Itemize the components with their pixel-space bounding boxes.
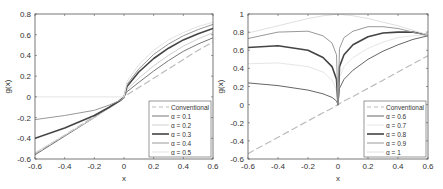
legend: Conventionalα = 0.1α = 0.2α = 0.3α = 0.4… [149, 101, 211, 157]
right-chart-panel: -0.6-0.4-0.200.20.40.6-0.6-0.4-0.200.20.… [216, 10, 434, 183]
legend-label: α = 0.5 [171, 149, 192, 156]
left-chart-panel: -0.6-0.4-0.200.20.40.6-0.6-0.4-0.200.20.… [3, 10, 219, 183]
y-tick-label: -0.2 [230, 119, 244, 128]
x-tick-label: -0.2 [87, 162, 101, 171]
y-tick-label: 0 [27, 93, 32, 102]
x-tick-label: 0 [336, 162, 341, 171]
y-tick-label: 0.6 [233, 46, 245, 55]
series-line-5 [35, 22, 213, 97]
y-tick-label: -0.6 [17, 155, 31, 164]
y-tick-label: 0.8 [233, 28, 245, 37]
legend-label: α = 0.7 [386, 122, 407, 129]
legend-label: Conventional [386, 104, 424, 111]
legend: Conventionalα = 0.6α = 0.7α = 0.8α = 0.9… [364, 101, 426, 157]
y-tick-label: 0.4 [20, 51, 32, 60]
x-tick-label: -0.4 [271, 162, 285, 171]
x-tick-label: 0.4 [178, 162, 190, 171]
y-tick-label: 0.2 [233, 83, 245, 92]
legend-label: α = 0.1 [171, 113, 192, 120]
y-tick-label: 0.2 [20, 72, 32, 81]
x-tick-label: 0.2 [362, 162, 374, 171]
x-tick-label: 0.2 [148, 162, 160, 171]
x-axis-label: x [122, 174, 126, 183]
y-tick-label: -0.4 [230, 137, 244, 146]
legend-label: α = 0.4 [171, 140, 192, 147]
y-tick-label: -0.4 [17, 134, 31, 143]
legend-label: α = 0.9 [386, 140, 407, 147]
legend-label: α = 0.6 [386, 113, 407, 120]
legend-label: α = 0.2 [171, 122, 192, 129]
x-tick-label: -0.2 [301, 162, 315, 171]
x-tick-label: 0.4 [392, 162, 404, 171]
legend-label: α = 1 [386, 149, 401, 156]
y-axis-label: g(x) [3, 79, 12, 93]
y-axis-label: g(x) [216, 79, 225, 93]
x-tick-label: 0 [122, 162, 127, 171]
series-line-4 [248, 27, 428, 105]
x-axis-label: x [336, 174, 340, 183]
y-tick-label: 0.4 [233, 64, 245, 73]
y-tick-label: -0.2 [17, 114, 31, 123]
legend-label: Conventional [171, 104, 209, 111]
figure: -0.6-0.4-0.200.20.40.6-0.6-0.4-0.200.20.… [0, 0, 443, 189]
y-tick-label: 0.6 [20, 31, 32, 40]
x-tick-label: -0.4 [58, 162, 72, 171]
x-tick-label: 0.6 [422, 162, 434, 171]
legend-label: α = 0.8 [386, 131, 407, 138]
y-tick-label: 0.8 [20, 10, 32, 19]
y-tick-label: 0 [240, 101, 245, 110]
legend-label: α = 0.3 [171, 131, 192, 138]
x-tick-label: 0.6 [207, 162, 219, 171]
y-tick-label: -0.6 [230, 155, 244, 164]
y-tick-label: 1 [240, 10, 245, 19]
